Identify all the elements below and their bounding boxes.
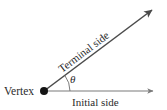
vertex-dot bbox=[40, 87, 48, 95]
theta-symbol-label: θ bbox=[70, 73, 76, 85]
vertex-label: Vertex bbox=[4, 85, 34, 97]
terminal-side-label: Terminal side bbox=[56, 29, 111, 75]
angle-diagram: Vertex Initial side Terminal side θ bbox=[0, 0, 167, 110]
initial-side-label: Initial side bbox=[72, 96, 119, 108]
terminal-side-ray bbox=[44, 10, 152, 91]
angle-diagram-canvas: Vertex Initial side Terminal side θ bbox=[0, 0, 167, 110]
